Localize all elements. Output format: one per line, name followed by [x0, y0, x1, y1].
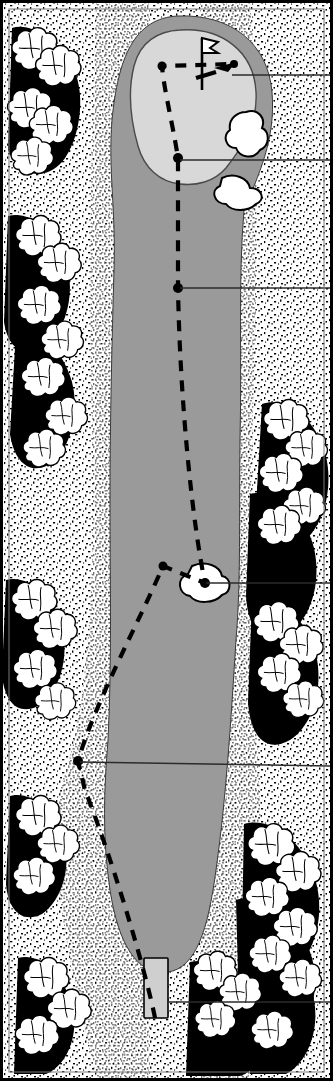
tee-box	[144, 958, 168, 1018]
hole-layout-svg	[0, 0, 333, 1081]
diagram-canvas: Golf hole plan view	[0, 0, 333, 1081]
golf-hole-diagram: Golf hole plan view	[0, 0, 333, 1081]
